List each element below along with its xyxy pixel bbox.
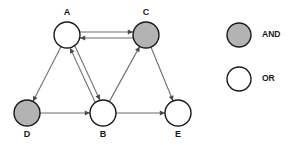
node-e-label: E xyxy=(175,129,181,139)
node-b-label: B xyxy=(100,129,107,139)
node-c[interactable]: C xyxy=(133,7,159,48)
edge-a-c-arrowhead-to-C xyxy=(128,30,133,35)
edge-c-e xyxy=(151,47,173,101)
edge-b-e xyxy=(116,111,165,116)
edge-d-b xyxy=(40,111,90,116)
edge-a-b xyxy=(70,46,100,103)
node-e[interactable]: E xyxy=(165,100,191,139)
edge-a-c xyxy=(80,30,133,41)
node-a-circle-or[interactable] xyxy=(54,22,80,48)
node-a-label: A xyxy=(64,7,71,17)
edge-b-c-line xyxy=(109,46,139,101)
edge-a-b-line-reverse xyxy=(70,48,95,102)
edge-a-c-arrowhead-to-A xyxy=(80,36,85,41)
node-a[interactable]: A xyxy=(54,7,80,48)
and-or-graph: ACDBE ANDOR xyxy=(0,0,293,145)
legend-layer: ANDOR xyxy=(227,23,280,91)
legend-swatch-or xyxy=(227,67,251,91)
node-c-circle-and[interactable] xyxy=(133,22,159,48)
edge-a-d-line xyxy=(33,47,61,102)
node-d-label: D xyxy=(24,129,31,139)
legend-item-and: AND xyxy=(227,23,280,47)
legend-label-and: AND xyxy=(262,29,280,39)
node-c-label: C xyxy=(143,7,150,17)
node-b[interactable]: B xyxy=(90,100,116,139)
edge-a-d xyxy=(33,47,61,102)
edge-a-b-line-forward xyxy=(75,46,100,100)
edge-b-c xyxy=(109,46,139,101)
edge-c-e-line xyxy=(151,47,173,101)
node-b-circle-or[interactable] xyxy=(90,100,116,126)
legend-label-or: OR xyxy=(262,73,275,83)
node-d[interactable]: D xyxy=(14,100,40,139)
edge-d-b-arrowhead-to-B xyxy=(85,111,90,116)
legend-item-or: OR xyxy=(227,67,275,91)
node-layer: ACDBE xyxy=(14,7,191,139)
node-d-circle-and[interactable] xyxy=(14,100,40,126)
legend-swatch-and xyxy=(227,23,251,47)
diagram-canvas: ACDBE ANDOR xyxy=(0,0,293,145)
node-e-circle-or[interactable] xyxy=(165,100,191,126)
edge-b-e-arrowhead-to-E xyxy=(160,111,165,116)
